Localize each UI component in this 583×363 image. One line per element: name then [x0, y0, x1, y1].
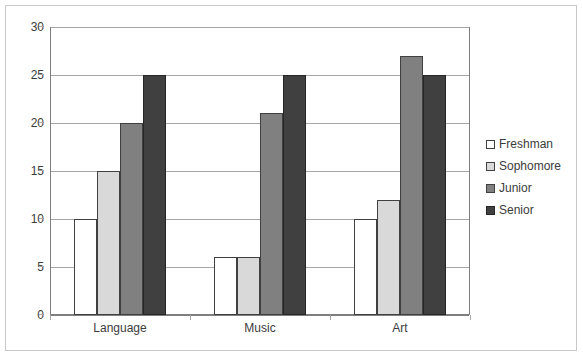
y-tick-label-25: 25 [10, 69, 44, 81]
y-tick-mark-10 [39, 218, 44, 219]
gridline-0 [51, 315, 469, 316]
y-tick-label-10: 10 [10, 213, 44, 225]
legend-item-senior[interactable]: Senior [486, 199, 574, 221]
y-tick-mark-30 [39, 26, 44, 27]
y-tick-mark-0 [39, 314, 44, 315]
gridline-20 [51, 123, 469, 124]
gridline-25 [51, 75, 469, 76]
y-tick-mark-20 [39, 122, 44, 123]
x-category-tick-0 [50, 315, 51, 320]
legend-swatch-icon-senior [486, 206, 495, 215]
x-category-tick-3 [470, 315, 471, 320]
x-category-tick-1 [190, 315, 191, 320]
gridline-30 [51, 27, 469, 28]
gridline-10 [51, 219, 469, 220]
y-axis: 051015202530 [0, 27, 44, 315]
legend-item-freshman[interactable]: Freshman [486, 133, 574, 155]
x-category-tick-2 [330, 315, 331, 320]
legend-swatch-icon-junior [486, 184, 495, 193]
plot-area [50, 27, 470, 315]
y-tick-mark-25 [39, 74, 44, 75]
y-tick-label-30: 30 [10, 21, 44, 33]
legend: FreshmanSophomoreJuniorSenior [486, 133, 574, 221]
y-tick-mark-5 [39, 266, 44, 267]
legend-label-junior: Junior [499, 182, 532, 194]
x-axis-label-art: Art [330, 322, 470, 335]
bar-chart: 051015202530 LanguageMusicArt FreshmanSo… [0, 0, 583, 363]
legend-label-freshman: Freshman [499, 138, 553, 150]
y-tick-mark-15 [39, 170, 44, 171]
x-axis-label-language: Language [50, 322, 190, 335]
legend-label-senior: Senior [499, 204, 534, 216]
legend-item-junior[interactable]: Junior [486, 177, 574, 199]
gridline-5 [51, 267, 469, 268]
legend-swatch-icon-freshman [486, 140, 495, 149]
y-tick-label-5: 5 [10, 261, 44, 273]
y-tick-label-15: 15 [10, 165, 44, 177]
x-axis-label-music: Music [190, 322, 330, 335]
y-tick-label-20: 20 [10, 117, 44, 129]
gridline-15 [51, 171, 469, 172]
y-tick-label-0: 0 [10, 309, 44, 321]
legend-label-sophomore: Sophomore [499, 160, 561, 172]
legend-swatch-icon-sophomore [486, 162, 495, 171]
legend-item-sophomore[interactable]: Sophomore [486, 155, 574, 177]
